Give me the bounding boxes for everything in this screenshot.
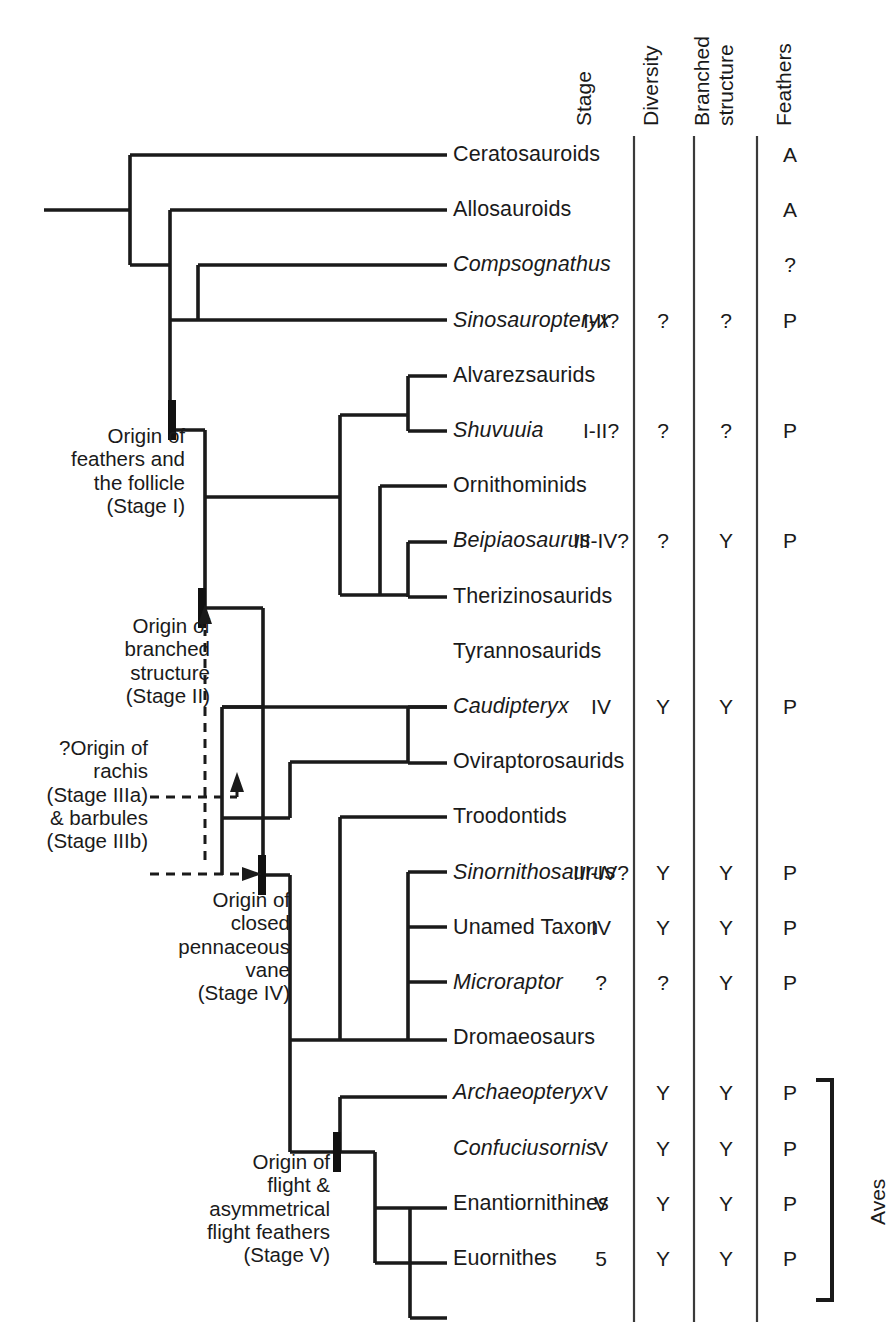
taxon-label: Unamed Taxon (453, 917, 598, 939)
aves-bracket (816, 1080, 832, 1300)
cladogram-figure: Stage Diversity Branched structure Feath… (0, 0, 890, 1332)
diversity-cell: ? (657, 971, 669, 995)
node-pennaraptora (205, 608, 263, 875)
branched-structure-cell: Y (719, 1192, 733, 1216)
taxon-label: Tyrannosaurids (453, 641, 601, 663)
column-header-branched-line2: structure (714, 44, 738, 126)
feathers-cell: P (783, 861, 797, 885)
node-therizinosaurids (380, 542, 408, 597)
feathers-cell: P (783, 971, 797, 995)
stage-cell: IV (591, 695, 611, 719)
diversity-cell: Y (656, 1081, 670, 1105)
taxon-label: Allosauroids (453, 199, 571, 221)
annotation-stage-4: Origin of closed pennaceous vane (Stage … (80, 888, 290, 1005)
stage-cell: V (594, 1137, 608, 1161)
taxon-label: Dromaeosaurs (453, 1027, 595, 1049)
feathers-cell: P (783, 1081, 797, 1105)
taxon-label: Oviraptorosaurids (453, 751, 624, 773)
taxon-label: Caudipteryx (453, 696, 569, 718)
taxon-label: Enantiornithines (453, 1193, 609, 1215)
taxon-label: Compsognathus (453, 255, 611, 277)
stage-cell: I-II? (583, 309, 619, 333)
feathers-cell: P (783, 309, 797, 333)
diversity-cell: Y (656, 916, 670, 940)
branched-structure-cell: Y (719, 1137, 733, 1161)
diversity-cell: Y (656, 1192, 670, 1216)
diversity-cell: ? (657, 529, 669, 553)
diversity-cell: Y (656, 861, 670, 885)
column-header-feathers: Feathers (772, 43, 796, 126)
stage-cell: IV (591, 916, 611, 940)
taxon-label: Beipiaosaurus (453, 531, 591, 553)
stage-cell: 5 (595, 1247, 607, 1271)
feathers-cell: P (783, 419, 797, 443)
node-aves-2 (340, 1152, 375, 1263)
diversity-cell: Y (656, 695, 670, 719)
taxon-label: Archaeopteryx (453, 1083, 593, 1105)
diversity-cell: Y (656, 1137, 670, 1161)
feathers-cell: A (783, 143, 797, 167)
node-deinonychosauria (290, 817, 340, 1040)
branched-structure-cell: Y (719, 1247, 733, 1271)
feathers-cell: ? (784, 253, 796, 277)
annotation-stage-5: Origin of flight & asymmetrical flight f… (100, 1150, 330, 1267)
taxon-label: Alvarezsaurids (453, 365, 595, 387)
stage-cell: V (594, 1081, 608, 1105)
taxon-label: Microraptor (453, 972, 563, 994)
node-orn-ther (340, 486, 380, 595)
stage-cell: I-II? (583, 419, 619, 443)
clade-label-aves: Aves (866, 1179, 890, 1225)
feathers-cell: A (783, 198, 797, 222)
branched-structure-cell: ? (720, 309, 732, 333)
feathers-cell: P (783, 1192, 797, 1216)
taxon-label: Ornithominids (453, 475, 587, 497)
diversity-cell: Y (656, 1247, 670, 1271)
stage-cell: ? (595, 971, 607, 995)
arrowhead-rachis (230, 772, 244, 792)
stage-cell: III-IV? (573, 529, 629, 553)
stage-cell: V (594, 1192, 608, 1216)
feathers-cell: P (783, 529, 797, 553)
node-compsognathidae (170, 265, 198, 320)
column-header-branched-line1: Branched (690, 36, 714, 126)
diversity-cell: ? (657, 309, 669, 333)
taxon-label: Euornithes (453, 1248, 557, 1270)
branched-structure-cell: ? (720, 419, 732, 443)
diversity-cell: ? (657, 419, 669, 443)
annotation-stage-1: Origin of feathers and the follicle (Sta… (0, 424, 185, 517)
annotation-stage-2: Origin of branched structure (Stage II) (10, 614, 210, 707)
branched-structure-cell: Y (719, 916, 733, 940)
feathers-cell: P (783, 695, 797, 719)
node-caudipteryx-pair (290, 707, 408, 763)
column-header-diversity: Diversity (639, 45, 663, 126)
feathers-cell: P (783, 1137, 797, 1161)
node-alvarezsaurids (340, 376, 408, 431)
branched-structure-cell: Y (719, 861, 733, 885)
feathers-cell: P (783, 916, 797, 940)
branched-structure-cell: Y (719, 971, 733, 995)
annotation-stage-3: ?Origin of rachis (Stage IIIa) & barbule… (0, 736, 148, 853)
branched-structure-cell: Y (719, 529, 733, 553)
branched-structure-cell: Y (719, 1081, 733, 1105)
branched-structure-cell: Y (719, 695, 733, 719)
column-header-stage: Stage (572, 71, 596, 126)
node-ornithothoraces (375, 1208, 410, 1318)
taxon-label: Shuvuuia (453, 420, 543, 442)
taxon-label: Confuciusornis (453, 1138, 597, 1160)
feathers-cell: P (783, 1247, 797, 1271)
taxon-label: Ceratosauroids (453, 144, 600, 166)
node-aves (290, 1097, 340, 1152)
node-dromaeosauridae (340, 872, 408, 1040)
node-tetanurae (130, 210, 170, 430)
taxon-label: Troodontids (453, 807, 567, 829)
stage-cell: III-IV? (573, 861, 629, 885)
node-alvz-ther (250, 415, 340, 595)
taxon-label: Therizinosaurids (453, 586, 612, 608)
